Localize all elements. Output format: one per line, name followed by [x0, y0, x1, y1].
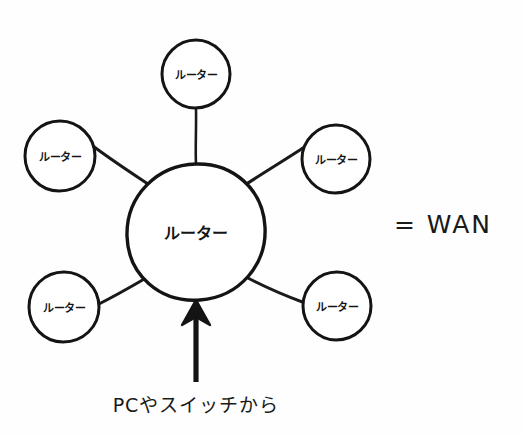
hand-drawn-network-diagram	[0, 0, 524, 436]
connector-hub-to-upper-left	[89, 143, 148, 184]
hub-circle	[127, 164, 265, 300]
satellite-circle-lower-right[interactable]	[303, 272, 371, 340]
satellite-circle-upper-right[interactable]	[302, 125, 370, 193]
satellite-circle-top[interactable]	[162, 40, 230, 108]
connector-hub-to-lower-right	[246, 277, 305, 303]
connector-hub-to-lower-left	[95, 278, 146, 306]
satellite-circle-lower-left[interactable]	[29, 272, 99, 342]
satellite-circle-upper-left[interactable]	[25, 121, 95, 191]
connector-hub-to-upper-right	[245, 146, 306, 185]
hub-node[interactable]	[127, 164, 265, 300]
incoming-traffic-arrow	[182, 300, 210, 382]
diagram-canvas: ルーター ルーター ルーター ルーター ルーター ルーター = WAN PCやス…	[0, 0, 524, 436]
